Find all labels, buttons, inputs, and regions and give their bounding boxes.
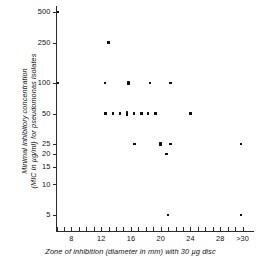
data-point [147,112,149,114]
data-point [133,143,135,145]
x-tick-minor [57,227,58,232]
x-tick-minor [198,227,199,232]
x-tick-label: 28 [208,234,232,243]
data-point [154,112,156,114]
y-tick-label: 250 [23,38,51,47]
data-point [104,82,106,84]
data-point [169,143,171,145]
x-tick-minor [64,227,65,232]
y-tick [53,12,57,13]
x-tick-minor [168,227,169,232]
scatter-chart: Minimal inhibitory concentration (MIC in… [0,0,261,262]
data-point [104,112,106,114]
data-point [127,81,130,86]
data-point [149,82,151,84]
y-tick-label: 100 [23,78,51,87]
data-point [240,214,242,216]
x-tick-minor [71,227,72,232]
x-tick-minor [116,227,117,232]
x-tick-label: 16 [119,234,143,243]
x-tick-minor [176,227,177,232]
x-tick-minor [213,227,214,232]
x-tick-label: 24 [178,234,202,243]
x-axis-label: Zone of inhibition (diameter in mm) with… [0,247,261,256]
data-point [140,112,142,114]
data-point [57,82,59,84]
y-tick [53,215,57,216]
y-tick-label: 15 [23,162,51,171]
x-tick-minor [190,227,191,232]
x-tick-minor [86,227,87,232]
data-point [189,112,191,114]
y-tick-label: 25 [23,139,51,148]
x-tick-minor [153,227,154,232]
x-tick-label: 20 [149,234,173,243]
y-tick-label: 10 [23,180,51,189]
data-point [112,112,114,114]
x-tick-minor [243,227,244,232]
data-point [169,82,171,84]
x-tick-minor [161,227,162,232]
data-point [126,111,129,116]
x-tick-minor [94,227,95,232]
x-tick-label: >30 [231,234,255,243]
data-point [159,142,162,147]
y-tick [53,114,57,115]
y-tick [53,167,57,168]
data-point [167,214,169,216]
x-tick-label: 8 [59,234,83,243]
x-tick-minor [235,227,236,232]
y-tick [53,144,57,145]
x-tick-minor [123,227,124,232]
x-tick-minor [138,227,139,232]
y-tick [53,83,57,84]
y-tick-label: 500 [23,7,51,16]
y-tick-label: 50 [23,109,51,118]
y-axis-label: Minimal inhibitory concentration (MIC in… [14,46,44,196]
x-tick-minor [79,227,80,232]
y-tick [53,43,57,44]
x-tick-label: 12 [89,234,113,243]
x-tick-minor [109,227,110,232]
y-axis-line [56,6,57,231]
data-point [107,41,109,43]
x-tick-minor [146,227,147,232]
y-tick-label: 20 [23,149,51,158]
data-point [165,153,167,155]
x-tick-minor [183,227,184,232]
y-tick [53,154,57,155]
data-point [240,143,242,145]
data-point [133,112,135,114]
x-tick-minor [220,227,221,232]
x-tick-minor [131,227,132,232]
x-tick-minor [205,227,206,232]
x-tick-minor [228,227,229,232]
data-point [119,112,121,114]
x-tick-minor [101,227,102,232]
y-tick-label: 5 [23,210,51,219]
y-tick [53,184,57,185]
data-point [57,11,59,13]
